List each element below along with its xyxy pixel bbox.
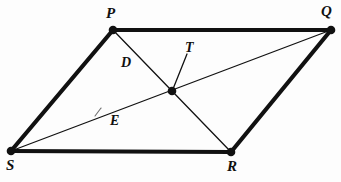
vertex-dot-S: [7, 147, 16, 156]
segment-label-d: D: [121, 56, 131, 70]
geometry-canvas: [0, 0, 341, 182]
geometry-diagram: P Q R S D E T: [0, 0, 341, 182]
vertex-dots-group: [7, 26, 336, 157]
side-SP: [11, 30, 113, 151]
point-label-t: T: [185, 41, 194, 55]
leader-line-t: [173, 54, 187, 89]
segment-label-e: E: [110, 114, 119, 128]
vertex-label-r: R: [227, 159, 237, 174]
intersection-dot-T: [168, 87, 177, 96]
tick-mark-sq-icon: [95, 108, 101, 116]
side-RS: [11, 151, 231, 152]
vertex-label-p: P: [106, 6, 115, 21]
vertex-dot-Q: [327, 26, 336, 35]
vertex-dot-P: [109, 26, 118, 35]
leader-lines-group: [173, 54, 187, 89]
vertex-dot-R: [227, 148, 236, 157]
vertex-label-s: S: [6, 158, 14, 173]
tick-marks-group: [95, 108, 101, 116]
vertex-label-q: Q: [321, 4, 332, 19]
